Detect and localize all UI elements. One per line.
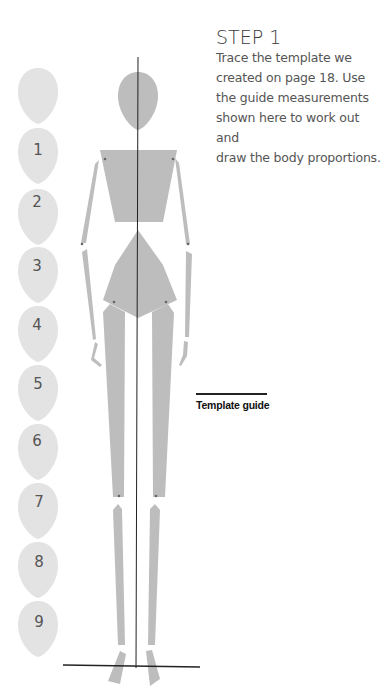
- head-unit-5: [18, 365, 58, 421]
- step-body-line: shown here to work out and: [216, 108, 381, 148]
- joint-dot: [172, 158, 175, 161]
- forearm-right: [185, 251, 192, 337]
- joint-dot: [118, 495, 121, 498]
- head-unit-7: [18, 483, 58, 539]
- head-unit-label: 7: [34, 493, 44, 511]
- thigh-left: [103, 304, 125, 497]
- joint-dot: [155, 495, 158, 498]
- upper-arm-right: [175, 158, 190, 244]
- calf-right: [148, 504, 160, 645]
- head-unit-4: [18, 306, 58, 362]
- head-unit-0: [18, 68, 58, 124]
- center-guide-line: [136, 57, 138, 668]
- caption-rule: [196, 393, 267, 395]
- step-body-line: draw the body proportions.: [216, 148, 381, 168]
- head-unit-label: 1: [33, 141, 43, 159]
- torso-shape: [100, 150, 177, 222]
- calf-left: [113, 504, 125, 645]
- step-body-line: the guide measurements: [216, 88, 381, 108]
- joint-dot: [187, 243, 190, 246]
- head-unit-label: 2: [32, 193, 42, 211]
- forearm-left: [82, 249, 96, 340]
- foot-right: [146, 650, 160, 686]
- joint-dot: [104, 158, 107, 161]
- template-guide-caption: Template guide: [196, 399, 269, 411]
- step-instructions: STEP 1 Trace the template we created on …: [216, 26, 381, 168]
- step-body-line: created on page 18. Use: [216, 68, 381, 88]
- pelvis-shape: [103, 230, 177, 318]
- head-unit-label: 3: [32, 257, 42, 275]
- thigh-right: [152, 304, 174, 497]
- step-body-line: Trace the template we: [216, 48, 381, 68]
- ground-line: [63, 665, 200, 667]
- joint-dot: [81, 243, 84, 246]
- head-unit-3: [18, 247, 58, 303]
- step-title: STEP 1: [216, 26, 381, 48]
- joint-dot: [113, 301, 116, 304]
- head-unit-label: 5: [33, 375, 43, 393]
- head-unit-label: 8: [34, 553, 44, 571]
- upper-arm-left: [81, 160, 99, 243]
- head-unit-label: 6: [32, 432, 42, 450]
- foot-left: [108, 651, 126, 684]
- head-unit-label: 9: [34, 613, 44, 631]
- joint-dot: [165, 301, 168, 304]
- hand-right: [179, 341, 188, 366]
- hand-left: [91, 342, 102, 367]
- head-unit-label: 4: [32, 316, 42, 334]
